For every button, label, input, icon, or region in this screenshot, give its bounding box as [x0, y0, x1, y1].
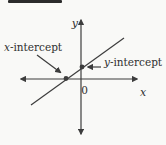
x-intercept-callout-arrow: [37, 55, 61, 73]
intercepts-diagram: y x 0 x-intercept y-intercept: [0, 0, 166, 145]
y-intercept-label: y-intercept: [103, 56, 163, 68]
y-axis-label: y: [71, 17, 79, 30]
x-intercept-point: [64, 76, 69, 81]
x-axis-label: x: [140, 86, 147, 99]
x-intercept-label-rest: -intercept: [10, 41, 63, 53]
cropped-highlight-bar: [8, 0, 62, 3]
coordinate-plane-figure: y x 0 x-intercept y-intercept: [0, 0, 166, 145]
origin-label: 0: [81, 84, 88, 96]
y-intercept-label-rest: -intercept: [110, 56, 163, 68]
x-intercept-label: x-intercept: [4, 41, 63, 53]
y-intercept-point: [80, 65, 85, 70]
